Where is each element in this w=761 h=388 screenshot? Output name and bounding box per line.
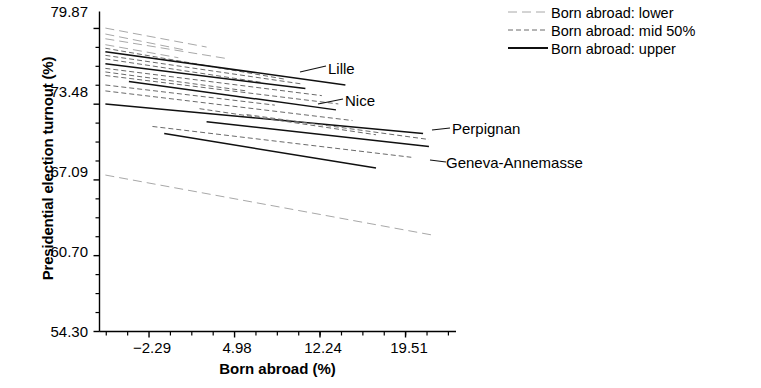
series-line bbox=[207, 122, 429, 147]
series-line bbox=[105, 55, 300, 83]
series-line bbox=[105, 104, 423, 134]
series-line bbox=[129, 81, 336, 109]
annotation-leader-line bbox=[430, 160, 446, 162]
chart-figure: Presidential election turnout (%) Born a… bbox=[0, 0, 761, 388]
plot-svg bbox=[0, 0, 761, 388]
annotation-leader-line bbox=[432, 128, 450, 130]
series-line bbox=[105, 85, 274, 105]
series-line bbox=[105, 64, 305, 89]
annotation-leader-line bbox=[300, 66, 326, 72]
series-line bbox=[164, 134, 376, 168]
series-line bbox=[105, 175, 434, 235]
series-line bbox=[105, 34, 187, 51]
